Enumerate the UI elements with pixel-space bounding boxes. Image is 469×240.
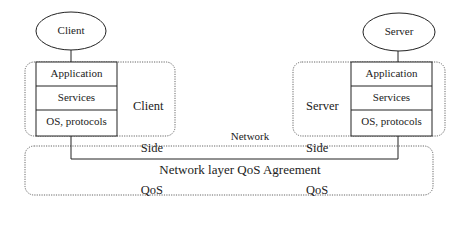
client-qos-line-3: QoS — [133, 183, 163, 197]
server-layer-application: Application — [351, 67, 432, 79]
server-qos-line-1: Server — [306, 99, 339, 113]
client-layer-os-protocols: OS, protocols — [36, 115, 117, 127]
network-agreement-label: Network layer QoS Agreement — [120, 162, 360, 178]
server-layer-services: Services — [351, 91, 432, 103]
server-title: Server — [363, 25, 435, 37]
client-qos-label: Client Side QoS — [133, 71, 163, 204]
server-qos-line-2: Side — [306, 141, 339, 155]
client-qos-line-2: Side — [133, 141, 163, 155]
server-qos-line-3: QoS — [306, 183, 339, 197]
client-layer-services: Services — [36, 91, 117, 103]
server-qos-label: Server Side QoS — [306, 71, 339, 204]
network-label: Network — [210, 130, 290, 142]
server-layer-os-protocols: OS, protocols — [351, 115, 432, 127]
client-title: Client — [36, 24, 106, 36]
client-qos-line-1: Client — [133, 99, 163, 113]
client-layer-application: Application — [36, 67, 117, 79]
